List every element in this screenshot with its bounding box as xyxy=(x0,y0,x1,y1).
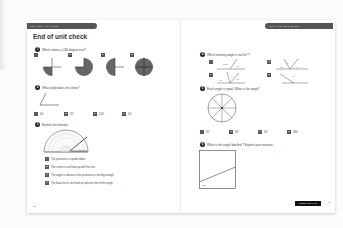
half-turn-diagram xyxy=(106,58,126,78)
question-number: 3 xyxy=(35,122,40,127)
question-2: 2 What angle does this show? xyxy=(35,85,80,90)
svg-text:?: ? xyxy=(293,75,295,78)
option-label: 20° xyxy=(128,113,132,116)
answer-option-c[interactable]: C 120° xyxy=(93,112,104,116)
option-letter: D xyxy=(122,112,126,116)
svg-text:40°: 40° xyxy=(296,66,300,69)
option-a[interactable]: A xyxy=(209,60,213,64)
option-letter: C xyxy=(258,130,262,134)
option-label: 360° xyxy=(293,131,298,134)
answer-option-a[interactable]: A 45° xyxy=(200,130,210,134)
right-page: Unit 6: Angles – End of unit check 4 Whi… xyxy=(181,20,335,213)
question-number: 4 xyxy=(200,52,205,57)
svg-text:?: ? xyxy=(231,75,233,78)
answer-option-d[interactable]: D 20° xyxy=(122,112,132,116)
option-d[interactable]: D xyxy=(267,73,271,77)
practice-book-link[interactable]: Practice book 4A p8 xyxy=(295,201,321,206)
angle-diagram-b: ? 90° 40° xyxy=(274,58,310,70)
three-quarter-turn-diagram xyxy=(75,58,95,78)
question-text: Explain the mistake. xyxy=(42,123,69,127)
right-page-header: Unit 6: Angles – End of unit check xyxy=(265,23,333,29)
equal-angles-circle xyxy=(207,93,237,123)
option-c[interactable]: C xyxy=(101,53,105,57)
question-5: 5 Each angle is equal. What is the angle… xyxy=(200,86,260,91)
question-3: 3 Explain the mistake. xyxy=(35,122,69,127)
option-b[interactable]: B xyxy=(68,53,72,57)
option-label: 60° xyxy=(40,113,44,116)
rectangle-angle-diagram: ? 22° xyxy=(199,150,237,190)
option-letter: C xyxy=(93,112,97,116)
question-number: 5 xyxy=(200,86,205,91)
option-label: 90° xyxy=(264,131,268,134)
answer-option-b[interactable]: B The centre is not lined up with the tu… xyxy=(45,165,96,169)
option-letter: D xyxy=(287,130,291,134)
svg-text:?: ? xyxy=(287,62,289,65)
option-letter: B xyxy=(64,112,68,116)
svg-text:130°: 130° xyxy=(223,63,228,66)
option-a[interactable]: A xyxy=(34,53,38,57)
answer-option-b[interactable]: B 30° xyxy=(229,130,239,134)
page-edge-shadow xyxy=(0,0,6,70)
option-label: 45° xyxy=(70,113,74,116)
svg-text:90°: 90° xyxy=(236,78,240,81)
option-letter: A xyxy=(45,157,49,161)
question-text: Each angle is equal. What is the angle? xyxy=(207,87,260,91)
svg-text:40°: 40° xyxy=(219,79,223,82)
option-label: 45° xyxy=(206,131,210,134)
answer-option-d[interactable]: D The base line is not lined up with one… xyxy=(45,181,113,185)
option-letter: B xyxy=(45,165,49,169)
angle-diagram xyxy=(39,92,61,106)
option-letter: D xyxy=(45,181,49,185)
option-label: The angle is obtuse so the protractor is… xyxy=(51,174,114,177)
question-number: 2 xyxy=(35,85,40,90)
question-4: 4 Which missing angle is not 50°? xyxy=(200,52,250,57)
page-number: 88 xyxy=(33,205,36,208)
option-letter: A xyxy=(200,130,204,134)
option-label: The protractor is upside down. xyxy=(51,158,86,161)
option-letter: A xyxy=(34,112,38,116)
question-text: What is the angle labelled ​? Explain yo… xyxy=(207,143,274,147)
viewer-stage: Unit 6: Angles – Unit 6: Revision End of… xyxy=(0,0,343,228)
option-label: 30° xyxy=(235,131,239,134)
option-letter: B xyxy=(229,130,233,134)
question-text: What angle does this show? xyxy=(42,86,80,90)
answer-option-a[interactable]: A The protractor is upside down. xyxy=(45,157,86,161)
answer-option-b[interactable]: B 45° xyxy=(64,112,74,116)
left-page: Unit 6: Angles – Unit 6: Revision End of… xyxy=(27,20,181,213)
angle-diagram-c: 40° ? 90° xyxy=(215,71,247,84)
full-turn-diagram xyxy=(135,58,155,78)
question-text: Which shows a 180 degree turn? xyxy=(42,48,86,52)
protractor-diagram xyxy=(43,128,89,154)
answer-option-d[interactable]: D 360° xyxy=(287,130,298,134)
left-page-header: Unit 6: Angles – Unit 6: Revision xyxy=(27,23,97,29)
answer-option-c[interactable]: C The angle is obtuse so the protractor … xyxy=(45,173,114,177)
svg-text:90°: 90° xyxy=(280,66,284,69)
page-title: End of unit check xyxy=(33,33,87,40)
question-number: 1 xyxy=(35,47,40,52)
angle-diagram-d: ? xyxy=(274,71,310,84)
option-label: 120° xyxy=(99,113,104,116)
quarter-turn-diagram xyxy=(43,58,63,78)
option-label: The centre is not lined up with the turn… xyxy=(51,166,96,169)
option-label: The base line is not lined up with one l… xyxy=(51,182,113,185)
option-d[interactable]: D xyxy=(130,53,134,57)
question-text: Which missing angle is not 50°? xyxy=(207,53,250,57)
answer-option-c[interactable]: C 90° xyxy=(258,130,268,134)
question-number: 6 xyxy=(200,142,205,147)
question-6: 6 What is the angle labelled ​? Explain … xyxy=(200,142,274,147)
option-c[interactable]: C xyxy=(209,73,213,77)
page-number: 89 xyxy=(328,201,331,204)
answer-option-a[interactable]: A 60° xyxy=(34,112,44,116)
angle-diagram-a: 130° ? xyxy=(215,58,247,70)
book-spread: Unit 6: Angles – Unit 6: Revision End of… xyxy=(27,20,335,213)
svg-text:22°: 22° xyxy=(202,184,206,187)
option-letter: C xyxy=(45,173,49,177)
option-b[interactable]: B xyxy=(267,60,271,64)
svg-text:?: ? xyxy=(237,65,239,68)
question-1: 1 Which shows a 180 degree turn? xyxy=(35,47,86,52)
